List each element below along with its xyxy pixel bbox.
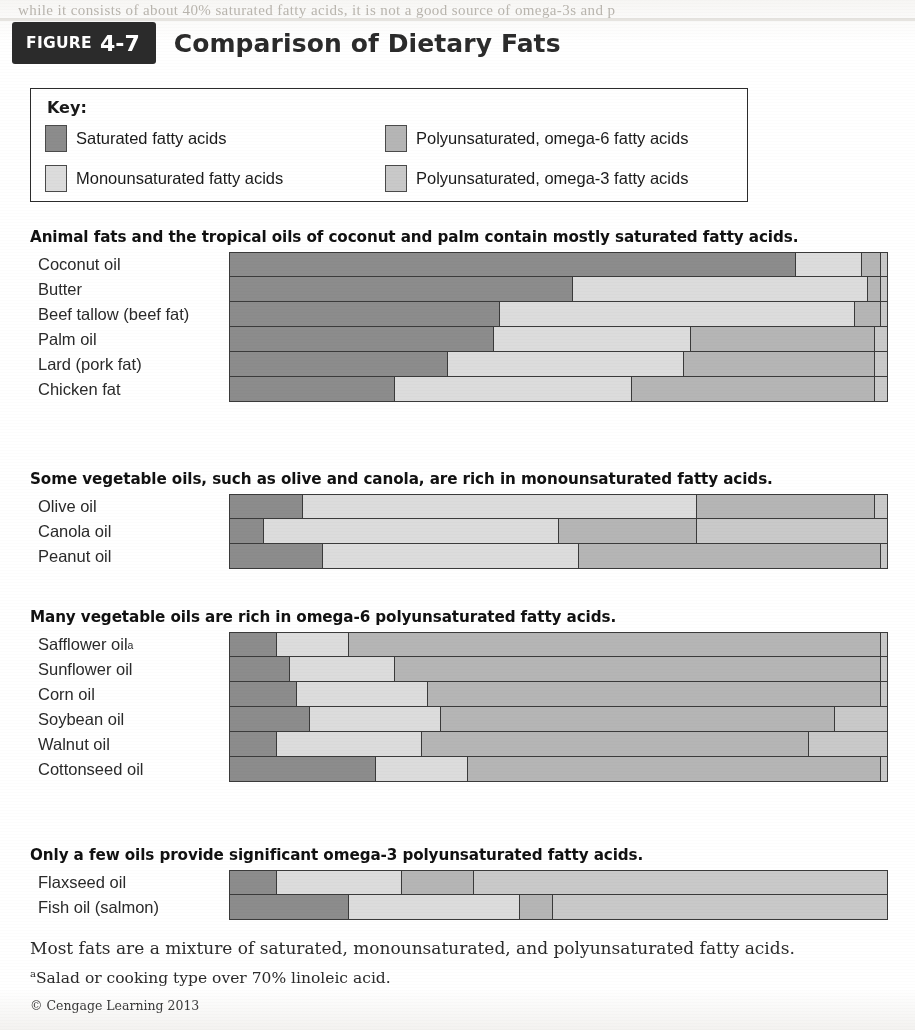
chart-section: Animal fats and the tropical oils of coc… bbox=[30, 228, 888, 402]
chart-row: Peanut oil bbox=[30, 544, 888, 569]
bar-segment-saturated bbox=[230, 253, 795, 276]
legend-swatch-icon bbox=[45, 125, 67, 152]
bar-segment-saturated bbox=[230, 519, 263, 543]
bar-segment-saturated bbox=[230, 302, 499, 326]
stacked-bar bbox=[229, 252, 888, 277]
chart-row-label: Beef tallow (beef fat) bbox=[30, 302, 229, 327]
chart-row-label: Chicken fat bbox=[30, 377, 229, 402]
chart-row-label: Peanut oil bbox=[30, 544, 229, 569]
legend-grid: Saturated fatty acidsPolyunsaturated, om… bbox=[45, 121, 733, 195]
chart-row-label: Corn oil bbox=[30, 682, 229, 707]
chart-row: Cottonseed oil bbox=[30, 757, 888, 782]
figure-title: Comparison of Dietary Fats bbox=[174, 22, 561, 64]
bar-segment-omega6 bbox=[401, 871, 473, 894]
bar-segment-monounsaturated bbox=[493, 327, 690, 351]
section-heading: Only a few oils provide significant omeg… bbox=[30, 846, 888, 864]
chart-row: Flaxseed oil bbox=[30, 870, 888, 895]
stacked-bar bbox=[229, 707, 888, 732]
chart-section: Some vegetable oils, such as olive and c… bbox=[30, 470, 888, 569]
bar-segment-omega6 bbox=[519, 895, 552, 919]
bar-segment-omega3 bbox=[696, 519, 887, 543]
stacked-bar bbox=[229, 352, 888, 377]
legend-item-label: Polyunsaturated, omega-6 fatty acids bbox=[416, 129, 688, 148]
chart-row-label: Palm oil bbox=[30, 327, 229, 352]
bar-segment-monounsaturated bbox=[276, 732, 421, 756]
legend-item-label: Monounsaturated fatty acids bbox=[76, 169, 283, 188]
bar-segment-omega6 bbox=[578, 544, 880, 568]
chart-row: Chicken fat bbox=[30, 377, 888, 402]
bar-segment-omega6 bbox=[690, 327, 874, 351]
section-heading: Some vegetable oils, such as olive and c… bbox=[30, 470, 888, 488]
stacked-bar bbox=[229, 632, 888, 657]
bar-segment-omega6 bbox=[861, 253, 881, 276]
bar-segment-saturated bbox=[230, 757, 375, 781]
legend-item: Polyunsaturated, omega-6 fatty acids bbox=[385, 121, 733, 155]
copyright-credit: © Cengage Learning 2013 bbox=[30, 998, 199, 1013]
chart-row-label: Safflower oila bbox=[30, 632, 229, 657]
bar-segment-omega3 bbox=[874, 377, 887, 401]
bar-segment-omega3 bbox=[880, 757, 887, 781]
bar-segment-omega6 bbox=[421, 732, 809, 756]
chart-row-label: Walnut oil bbox=[30, 732, 229, 757]
chart-row-label: Soybean oil bbox=[30, 707, 229, 732]
bar-segment-saturated bbox=[230, 544, 322, 568]
bar-segment-monounsaturated bbox=[322, 544, 578, 568]
bar-segment-saturated bbox=[230, 377, 394, 401]
chart-row: Safflower oila bbox=[30, 632, 888, 657]
bar-segment-monounsaturated bbox=[375, 757, 467, 781]
bar-segment-omega3 bbox=[880, 682, 887, 706]
chart-row-label: Cottonseed oil bbox=[30, 757, 229, 782]
legend-swatch-icon bbox=[385, 125, 407, 152]
bar-segment-omega6 bbox=[467, 757, 881, 781]
chart-row-label: Butter bbox=[30, 277, 229, 302]
bar-segment-omega6 bbox=[440, 707, 834, 731]
legend-title: Key: bbox=[47, 98, 733, 117]
chart-row: Beef tallow (beef fat) bbox=[30, 302, 888, 327]
chart-row: Sunflower oil bbox=[30, 657, 888, 682]
bar-segment-monounsaturated bbox=[289, 657, 394, 681]
bar-segment-omega3 bbox=[834, 707, 887, 731]
bar-segment-omega3 bbox=[552, 895, 887, 919]
bar-segment-saturated bbox=[230, 732, 276, 756]
bar-segment-monounsaturated bbox=[296, 682, 427, 706]
bar-segment-saturated bbox=[230, 707, 309, 731]
bar-segment-saturated bbox=[230, 352, 447, 376]
chart-row: Lard (pork fat) bbox=[30, 352, 888, 377]
stacked-bar bbox=[229, 327, 888, 352]
bar-segment-omega3 bbox=[473, 871, 887, 894]
bar-segment-omega3 bbox=[808, 732, 887, 756]
figure-tag-number: 4-7 bbox=[100, 31, 140, 56]
bar-segment-omega6 bbox=[427, 682, 880, 706]
stacked-bar bbox=[229, 277, 888, 302]
chart-row-label: Coconut oil bbox=[30, 252, 229, 277]
chart-section: Many vegetable oils are rich in omega-6 … bbox=[30, 608, 888, 782]
chart-row: Corn oil bbox=[30, 682, 888, 707]
stacked-bar bbox=[229, 682, 888, 707]
row-footnote-marker: a bbox=[128, 639, 134, 651]
bar-segment-omega6 bbox=[683, 352, 874, 376]
stacked-bar bbox=[229, 870, 888, 895]
stacked-bar bbox=[229, 519, 888, 544]
chart-row-label: Olive oil bbox=[30, 494, 229, 519]
bar-segment-omega3 bbox=[880, 657, 887, 681]
figure-page: while it consists of about 40% saturated… bbox=[0, 0, 915, 1030]
chart-row: Olive oil bbox=[30, 494, 888, 519]
chart-row: Coconut oil bbox=[30, 252, 888, 277]
chart-row: Soybean oil bbox=[30, 707, 888, 732]
chart-section: Only a few oils provide significant omeg… bbox=[30, 846, 888, 920]
legend-item-label: Saturated fatty acids bbox=[76, 129, 226, 148]
bar-segment-saturated bbox=[230, 633, 276, 656]
stacked-bar bbox=[229, 657, 888, 682]
chart-row: Walnut oil bbox=[30, 732, 888, 757]
chart-row-label: Flaxseed oil bbox=[30, 870, 229, 895]
bar-segment-monounsaturated bbox=[499, 302, 854, 326]
section-heading: Many vegetable oils are rich in omega-6 … bbox=[30, 608, 888, 626]
bar-segment-omega6 bbox=[394, 657, 880, 681]
summary-note: Most fats are a mixture of saturated, mo… bbox=[30, 938, 795, 958]
figure-tag-word: FIGURE bbox=[26, 34, 92, 52]
bar-segment-monounsaturated bbox=[572, 277, 868, 301]
bar-segment-omega6 bbox=[558, 519, 696, 543]
stacked-bar bbox=[229, 302, 888, 327]
legend-item-label: Polyunsaturated, omega-3 fatty acids bbox=[416, 169, 688, 188]
stacked-bar bbox=[229, 377, 888, 402]
